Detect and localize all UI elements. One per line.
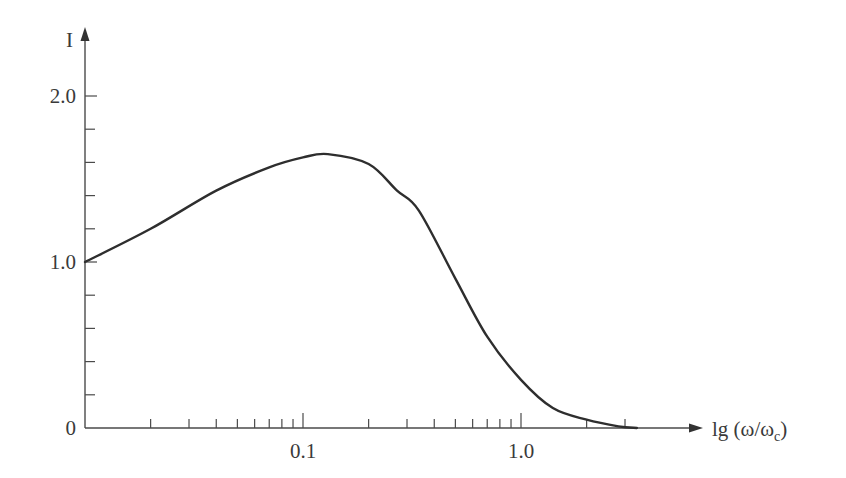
- x-ticks: [151, 413, 625, 428]
- x-tick-labels: 0.11.0: [290, 439, 534, 463]
- y-tick-label: 0: [66, 416, 77, 440]
- x-tick-label: 1.0: [508, 439, 534, 463]
- y-tick-labels: 01.02.0: [50, 84, 76, 440]
- y-tick-label: 2.0: [50, 84, 76, 108]
- y-axis-label: I: [66, 28, 73, 52]
- x-tick-label: 0.1: [290, 439, 316, 463]
- intensity-curve: [85, 154, 637, 428]
- y-axis-arrow-icon: [81, 27, 90, 41]
- x-axis-label: lg (ω/ωc): [712, 417, 787, 444]
- chart: 01.02.0 0.11.0 I lg (ω/ωc): [0, 0, 846, 478]
- x-axis-label-close: ): [780, 417, 787, 441]
- x-axis-label-main: lg (ω/ω: [712, 417, 774, 441]
- y-ticks: [85, 96, 97, 395]
- axes: [85, 36, 694, 428]
- x-axis-arrow-icon: [689, 424, 703, 433]
- y-tick-label: 1.0: [50, 250, 76, 274]
